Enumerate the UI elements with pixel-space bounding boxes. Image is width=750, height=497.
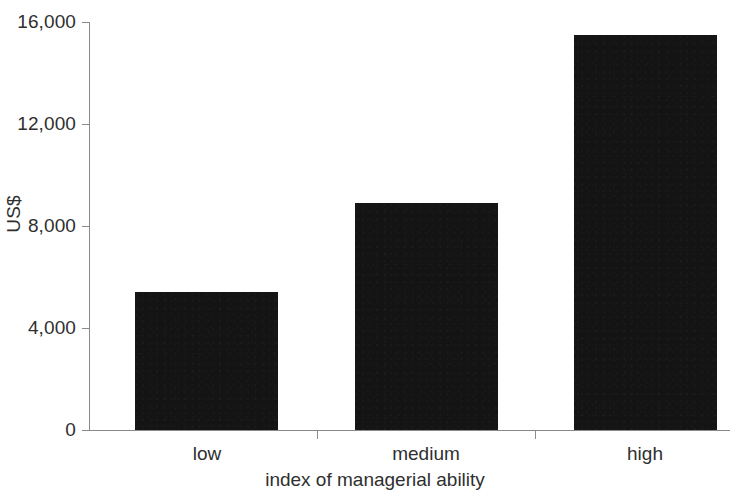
y-axis-title: US$ xyxy=(3,174,25,254)
y-tick-mark xyxy=(82,226,90,227)
bar-medium xyxy=(355,203,498,430)
x-tick-mark xyxy=(317,430,318,439)
x-tick-mark xyxy=(535,430,536,439)
x-axis-line xyxy=(89,430,730,431)
y-tick-mark xyxy=(82,22,90,23)
x-category-label-high: high xyxy=(627,443,663,465)
bar-low xyxy=(135,292,278,430)
y-tick-label: 12,000 xyxy=(0,113,76,135)
y-tick-label: 0 xyxy=(0,419,76,441)
y-tick-mark xyxy=(82,328,90,329)
x-category-label-medium: medium xyxy=(392,443,460,465)
y-tick-label: 16,000 xyxy=(0,11,76,33)
x-axis-title: index of managerial ability xyxy=(0,469,750,491)
bar-high xyxy=(574,35,717,430)
y-tick-mark xyxy=(82,430,90,431)
bar-chart: 0 4,000 8,000 12,000 16,000 low medium h… xyxy=(0,0,750,497)
y-tick-label: 4,000 xyxy=(0,317,76,339)
y-tick-mark xyxy=(82,124,90,125)
x-category-label-low: low xyxy=(193,443,222,465)
